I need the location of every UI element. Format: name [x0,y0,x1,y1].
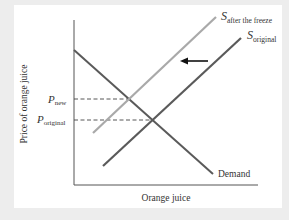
supply-after-freeze-curve [93,17,216,133]
y-axis-label: Price of orange juice [19,65,29,144]
left-arrow-icon [180,58,208,65]
p-original-label: Poriginal [36,113,66,127]
s-original-label: Soriginal [247,28,276,44]
supply-demand-chart: Safter the freeze Soriginal Demand Pnew … [0,0,289,220]
x-axis-label: Orange juice [142,193,191,203]
p-new-label: Pnew [47,93,67,107]
demand-curve [74,50,213,174]
s-after-freeze-label: Safter the freeze [221,9,273,25]
demand-label: Demand [218,169,250,179]
